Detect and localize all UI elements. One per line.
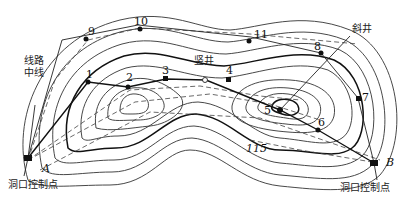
contour-line bbox=[120, 94, 149, 114]
label-115: 115 bbox=[246, 142, 267, 155]
portal-control-point-left-label: 洞口控制点 bbox=[8, 178, 58, 190]
contour-line bbox=[108, 88, 164, 121]
vertical-shaft-label: 竖井 bbox=[194, 54, 214, 66]
route-centerline-label-line2: 中线 bbox=[24, 66, 44, 78]
contour-line bbox=[39, 28, 385, 178]
control-point-2 bbox=[126, 85, 131, 90]
control-point-5 bbox=[277, 107, 283, 113]
vertical-shaft-point bbox=[203, 78, 208, 83]
label-11: 11 bbox=[254, 28, 268, 41]
label-10: 10 bbox=[134, 15, 148, 28]
label-7: 7 bbox=[362, 91, 369, 104]
portal-point-b bbox=[370, 160, 378, 166]
label-4: 4 bbox=[226, 64, 233, 77]
label-6: 6 bbox=[318, 116, 325, 129]
control-point-7 bbox=[356, 96, 361, 101]
label-9: 9 bbox=[88, 25, 95, 38]
inclined-shaft-label: 斜井 bbox=[352, 22, 372, 34]
label-8: 8 bbox=[314, 40, 321, 53]
label-3: 3 bbox=[162, 64, 169, 77]
label-a: A bbox=[41, 162, 50, 175]
label-b: B bbox=[385, 156, 394, 169]
dashed-lines bbox=[28, 28, 380, 170]
label-2: 2 bbox=[126, 71, 133, 84]
label-5: 5 bbox=[264, 104, 271, 117]
label-1: 1 bbox=[86, 68, 93, 81]
contour-line bbox=[23, 16, 397, 189]
route-centerline-label-line1: 线路 bbox=[24, 54, 44, 66]
control-point-11 bbox=[247, 39, 252, 44]
control-point-4 bbox=[226, 77, 231, 82]
outer-traverse bbox=[28, 25, 374, 163]
contour-lines bbox=[23, 16, 397, 189]
topographic-diagram: 1 2 3 4 5 6 7 8 9 10 11 A B 115 线路 中线 竖井… bbox=[0, 0, 402, 200]
portal-control-point-right-label: 洞口控制点 bbox=[340, 181, 390, 193]
portal-point-a bbox=[24, 155, 32, 161]
